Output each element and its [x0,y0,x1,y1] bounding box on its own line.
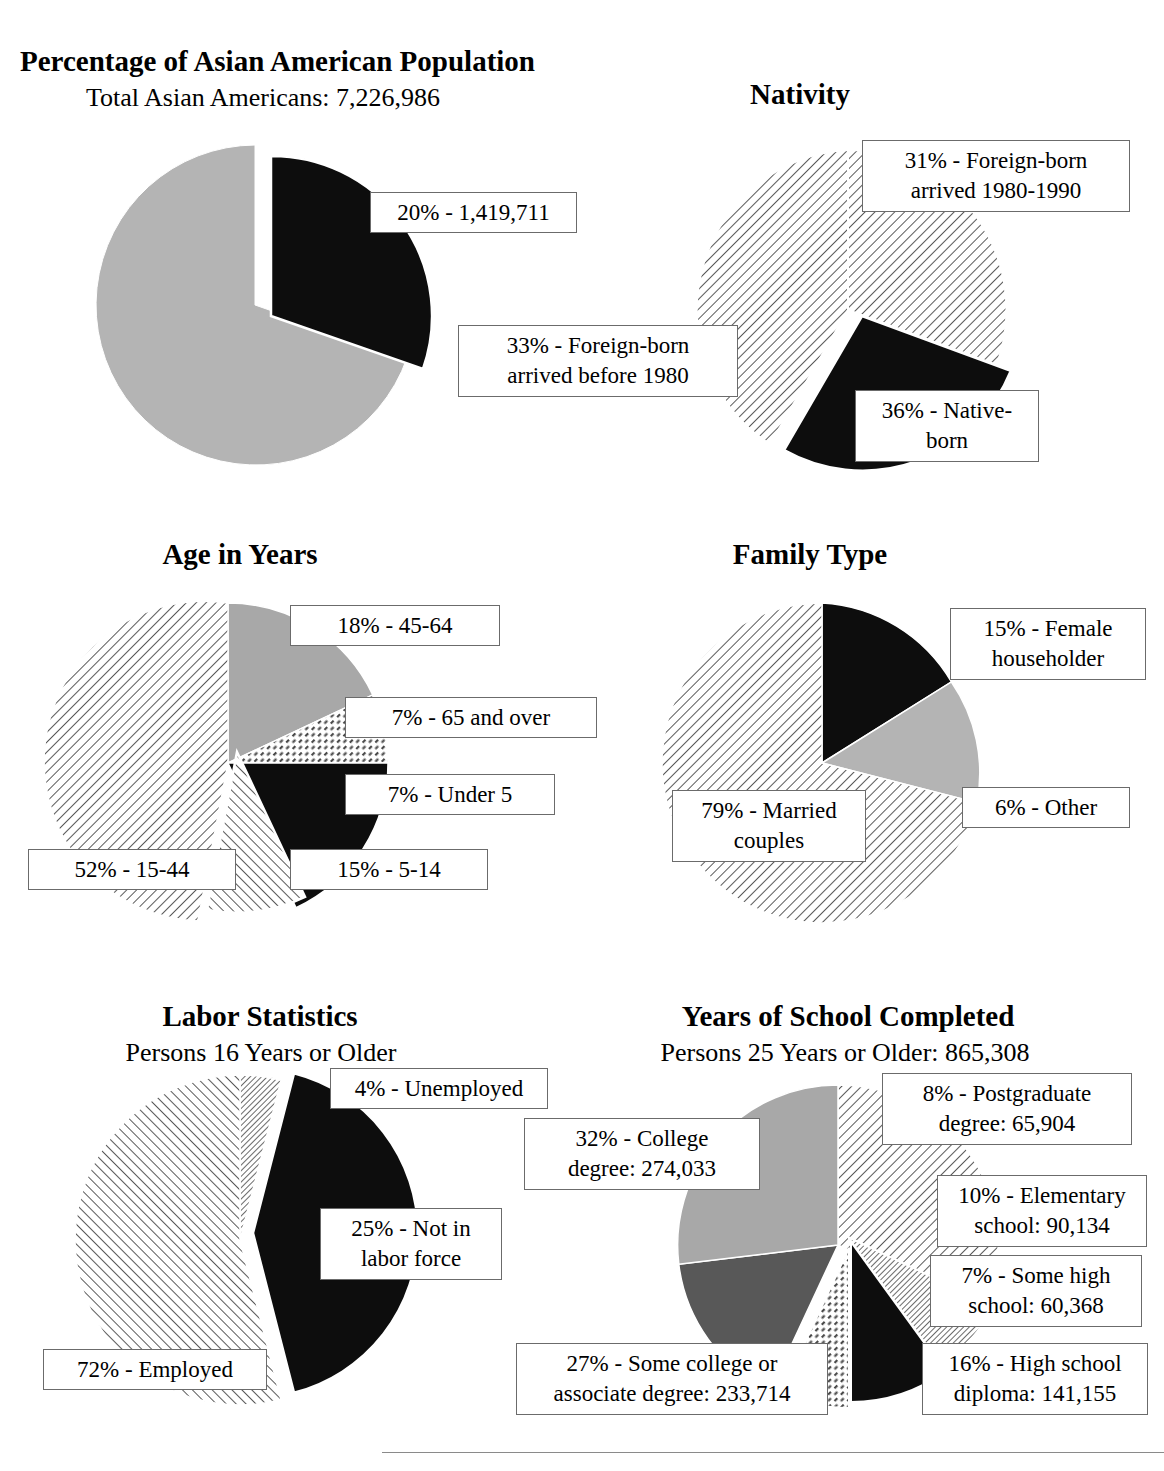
label-age-5-14: 15% - 5-14 [290,849,488,890]
label-labor-25: 25% - Not in labor force [320,1208,502,1280]
label-school-8: 8% - Postgraduate degree: 65,904 [882,1073,1132,1145]
page-title: Percentage of Asian American Population [20,45,535,78]
label-nativity-33: 33% - Foreign-born arrived before 1980 [458,325,738,397]
label-family-6: 6% - Other [962,787,1130,828]
label-school-7: 7% - Some high school: 60,368 [930,1255,1142,1327]
label-school-16: 16% - High school diploma: 141,155 [922,1343,1148,1415]
label-family-79: 79% - Married couples [672,790,866,862]
footer-divider [382,1452,1164,1453]
nativity-title: Nativity [640,78,960,111]
label-age-under-5: 7% - Under 5 [345,774,555,815]
label-labor-4: 4% - Unemployed [330,1068,548,1109]
total-population-subtitle: Total Asian Americans: 7,226,986 [28,83,498,113]
labor-title: Labor Statistics [100,1000,420,1033]
label-age-65-over: 7% - 65 and over [345,697,597,738]
total-population-pie [40,110,540,510]
label-school-10: 10% - Elementary school: 90,134 [937,1175,1147,1247]
label-family-15: 15% - Female householder [950,608,1146,680]
label-school-27: 27% - Some college or associate degree: … [516,1343,828,1415]
age-title: Age in Years [90,538,390,571]
school-title: Years of School Completed [628,1000,1068,1033]
family-type-title: Family Type [660,538,960,571]
report-page: Percentage of Asian American Population … [0,0,1164,1471]
label-age-15-44: 52% - 15-44 [28,849,236,890]
label-nativity-31: 31% - Foreign-born arrived 1980-1990 [862,140,1130,212]
label-total-population-20: 20% - 1,419,711 [370,192,577,233]
label-nativity-36: 36% - Native- born [855,390,1039,462]
label-age-18: 18% - 45-64 [290,605,500,646]
label-school-32: 32% - College degree: 274,033 [524,1118,760,1190]
label-labor-72: 72% - Employed [43,1349,267,1390]
